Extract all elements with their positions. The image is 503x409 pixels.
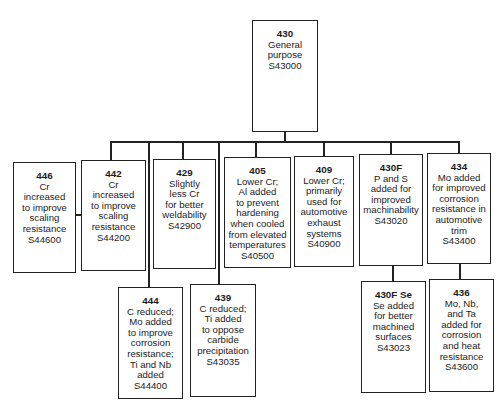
node-446: 446 Cr increased to improve scaling resi… xyxy=(13,162,76,273)
node-number: 444 xyxy=(119,296,182,307)
node-number: 430F xyxy=(360,163,422,174)
node-number: 439 xyxy=(191,293,255,304)
node-434: 434 Mo added for improved corrosion resi… xyxy=(427,153,491,264)
node-description: P and S added for improved machinability xyxy=(360,174,422,216)
node-description: C reduced; Ti added to oppose carbide pr… xyxy=(191,304,255,357)
node-description: Mo added for improved corrosion resistan… xyxy=(428,173,490,237)
node-430f-se: 430F Se Se added for better machined sur… xyxy=(361,281,426,393)
node-uns-code: S43035 xyxy=(191,357,255,368)
node-number: 409 xyxy=(295,165,353,176)
connector-430f xyxy=(390,141,392,155)
node-429: 429 Slightly less Cr for better weldabil… xyxy=(153,159,216,269)
node-405: 405 Lower Cr; Al added to prevent harden… xyxy=(224,157,291,268)
connector-429 xyxy=(182,141,184,160)
node-number: 442 xyxy=(82,169,145,180)
node-description: Cr increased to improve scaling resistan… xyxy=(82,180,145,233)
node-description: Mo, Nb, and Ta added for corrosion and h… xyxy=(430,299,493,363)
node-uns-code: S40900 xyxy=(295,239,353,250)
node-uns-code: S43400 xyxy=(428,236,490,247)
node-444: 444 C reduced; Mo added to improve corro… xyxy=(118,287,183,399)
node-description: Slightly less Cr for better weldability xyxy=(154,179,215,221)
connector-442 xyxy=(110,141,112,161)
node-uns-code: S43020 xyxy=(360,216,422,227)
node-436: 436 Mo, Nb, and Ta added for corrosion a… xyxy=(429,279,494,392)
node-number: 430F Se xyxy=(362,290,425,301)
node-description: Cr increased to improve scaling resistan… xyxy=(14,182,75,235)
node-number: 405 xyxy=(225,166,290,177)
node-number: 429 xyxy=(154,168,215,179)
node-description: Lower Cr; Al added to prevent hardening … xyxy=(225,177,290,251)
connector-444-column xyxy=(148,141,150,288)
node-description: General purpose xyxy=(253,40,317,61)
node-number: 434 xyxy=(428,162,490,173)
connector-434-to-436 xyxy=(459,263,461,280)
node-uns-code: S43023 xyxy=(362,343,425,354)
node-uns-code: S43000 xyxy=(253,61,317,72)
node-409: 409 Lower Cr; primarily used for automot… xyxy=(294,156,354,267)
node-number: 446 xyxy=(14,171,75,182)
connector-430f-to-430fse xyxy=(392,265,394,282)
node-number: 430 xyxy=(253,29,317,40)
connector-409 xyxy=(323,141,325,157)
node-uns-code: S43600 xyxy=(430,362,493,373)
node-description: Lower Cr; primarily used for automotive … xyxy=(295,176,353,240)
node-430f: 430F P and S added for improved machinab… xyxy=(359,154,423,266)
connector-405 xyxy=(255,141,257,158)
node-number: 436 xyxy=(430,288,493,299)
node-uns-code: S44200 xyxy=(82,233,145,244)
node-uns-code: S44600 xyxy=(14,235,75,246)
node-442: 442 Cr increased to improve scaling resi… xyxy=(81,160,146,271)
node-uns-code: S42900 xyxy=(154,221,215,232)
node-description: Se added for better machined surfaces xyxy=(362,301,425,343)
node-uns-code: S44400 xyxy=(119,381,182,392)
node-description: C reduced; Mo added to improve corrosion… xyxy=(119,307,182,381)
connector-main-bus xyxy=(110,141,460,143)
connector-439-column xyxy=(218,141,220,285)
node-430: 430 General purpose S43000 xyxy=(252,20,318,132)
node-uns-code: S40500 xyxy=(225,251,290,262)
node-439: 439 C reduced; Ti added to oppose carbid… xyxy=(190,284,256,397)
